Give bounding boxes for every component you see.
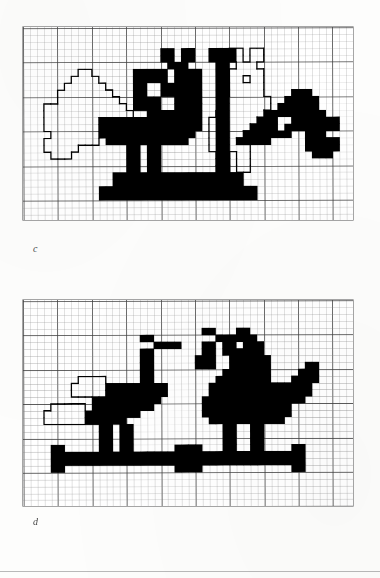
figure-c-label: c <box>33 243 38 254</box>
figure-c-pattern <box>23 27 353 220</box>
page-bottom-rule <box>0 571 380 572</box>
figure-d <box>23 300 353 506</box>
figure-d-label: d <box>33 516 38 527</box>
figure-c <box>23 27 353 220</box>
figure-c-grid-panel <box>23 27 353 220</box>
scanned-page: c d <box>0 0 380 578</box>
figure-d-grid-panel <box>23 300 353 506</box>
figure-d-pattern <box>23 300 353 506</box>
